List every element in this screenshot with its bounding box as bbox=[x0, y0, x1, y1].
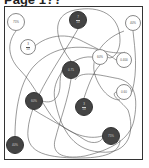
denominator: 10 bbox=[82, 108, 85, 111]
maze-node-dark: 310 bbox=[75, 98, 93, 116]
node-label: 0.75 bbox=[68, 69, 74, 72]
maze-node-dark: 60% bbox=[25, 92, 43, 110]
maze-node-light: 0.60 bbox=[116, 84, 132, 100]
maze-node-dark: 0.75 bbox=[62, 61, 80, 79]
node-label: 75% bbox=[13, 21, 19, 24]
maze-node-light: 60% bbox=[92, 49, 108, 65]
maze-node-dark: 40% bbox=[6, 136, 24, 154]
node-label: 40% bbox=[130, 22, 136, 25]
node-label: 60% bbox=[97, 56, 103, 59]
maze-node-light: 40% bbox=[125, 15, 141, 31]
maze-node-light: 0.400 bbox=[116, 52, 132, 68]
maze-node-light: 310 bbox=[20, 39, 36, 55]
node-label: 40% bbox=[12, 144, 18, 147]
fraction-label: 310 bbox=[82, 103, 86, 111]
fraction-label: 710 bbox=[76, 16, 80, 24]
node-label: 0.60 bbox=[121, 91, 127, 94]
node-label: 60% bbox=[31, 100, 37, 103]
node-label: 75% bbox=[108, 135, 114, 138]
node-label: 0.400 bbox=[120, 59, 128, 62]
denominator: 10 bbox=[76, 21, 79, 24]
maze-node-light: 75% bbox=[7, 13, 25, 31]
maze-node-dark: 75% bbox=[102, 127, 120, 145]
fraction-label: 310 bbox=[26, 43, 30, 51]
maze-node-dark: 710 bbox=[69, 11, 87, 29]
denominator: 10 bbox=[26, 48, 29, 51]
